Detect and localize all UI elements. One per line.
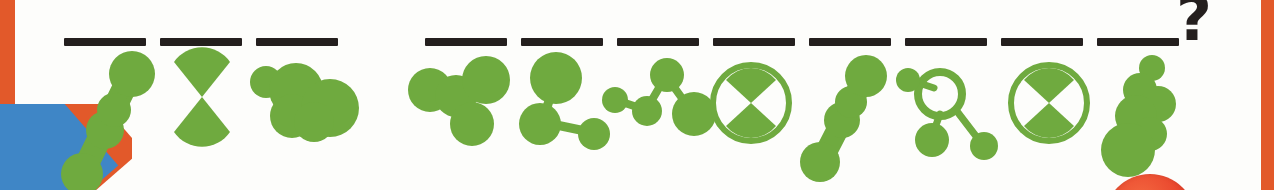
answer-blank-11[interactable] — [1097, 38, 1179, 46]
molecule-8-blob-chain-diagonal-short[interactable] — [806, 56, 890, 176]
answer-blank-3[interactable] — [256, 38, 338, 46]
question-mark: ? — [1176, 0, 1212, 50]
molecule-7-bowtie-in-ring[interactable] — [706, 58, 798, 150]
puzzle-page: ? — [0, 0, 1274, 190]
right-page-edge — [1261, 0, 1274, 190]
answer-blank-10[interactable] — [1001, 38, 1083, 46]
answer-blank-2[interactable] — [160, 38, 242, 46]
molecule-3-blob-cluster-wide[interactable] — [248, 56, 358, 142]
answer-blank-7[interactable] — [713, 38, 795, 46]
molecule-11-blob-cluster-vertical[interactable] — [1100, 54, 1192, 180]
answer-blank-1[interactable] — [64, 38, 146, 46]
answer-blank-4[interactable] — [425, 38, 507, 46]
molecule-4-three-node-bonded-group[interactable] — [408, 60, 518, 148]
answer-blank-6[interactable] — [617, 38, 699, 46]
answer-blank-5[interactable] — [521, 38, 603, 46]
answer-blank-8[interactable] — [809, 38, 891, 46]
molecule-10-bowtie-in-ring[interactable] — [1004, 58, 1096, 150]
answer-blank-9[interactable] — [905, 38, 987, 46]
molecule-2-bowtie-hourglass[interactable] — [168, 56, 236, 138]
molecule-9-open-ring-with-nodes[interactable] — [894, 58, 998, 164]
molecule-1-blob-chain-diagonal[interactable] — [58, 52, 154, 190]
molecule-6-four-node-zigzag-chain[interactable] — [604, 62, 714, 144]
